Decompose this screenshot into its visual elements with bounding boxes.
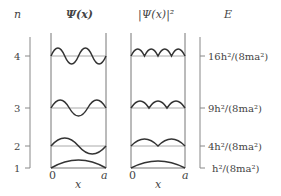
psi-squared-curve-n2 bbox=[131, 139, 185, 146]
n-label-4: 4 bbox=[14, 51, 20, 62]
energy-label-1: h²/(8ma²) bbox=[212, 163, 260, 174]
n-axis: 4 3 2 1 bbox=[14, 37, 30, 174]
energy-label-4: 16h²/(8ma²) bbox=[208, 51, 268, 62]
psi-x-start: 0 bbox=[49, 169, 56, 182]
n-label-3: 3 bbox=[14, 103, 20, 114]
header-n: n bbox=[14, 8, 21, 21]
psi-squared-curve-n1 bbox=[131, 161, 185, 168]
psi-squared-x-end: a bbox=[182, 169, 189, 182]
energy-axis: 16h²/(8ma²) 9h²/(8ma²) 4h²/(8ma²) h²/(8m… bbox=[200, 37, 268, 174]
energy-label-2: 4h²/(8ma²) bbox=[208, 141, 262, 152]
header-psi: Ψ(x) bbox=[66, 8, 93, 21]
psi-squared-x-label: x bbox=[155, 178, 162, 191]
psi-curve-n1 bbox=[51, 160, 106, 168]
header-psi-squared: |Ψ(x)|² bbox=[138, 8, 174, 22]
energy-level-diagram: n Ψ(x) |Ψ(x)|² E 4 3 2 1 0 a x bbox=[0, 0, 281, 196]
psi-squared-curve-n4 bbox=[131, 49, 185, 56]
psi-panel: 0 a x bbox=[49, 33, 108, 191]
header-energy: E bbox=[223, 8, 232, 21]
psi-x-label: x bbox=[75, 178, 82, 191]
n-label-1: 1 bbox=[14, 163, 20, 174]
psi-x-end: a bbox=[101, 169, 108, 182]
n-label-2: 2 bbox=[14, 141, 20, 152]
energy-label-3: 9h²/(8ma²) bbox=[208, 103, 262, 114]
psi-squared-curve-n3 bbox=[131, 101, 185, 108]
psi-squared-x-start: 0 bbox=[129, 169, 136, 182]
psi-squared-panel: 0 a x bbox=[129, 33, 189, 191]
